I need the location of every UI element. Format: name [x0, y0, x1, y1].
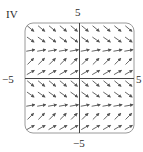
- field-arrow: [49, 37, 56, 42]
- field-arrow: [103, 70, 110, 74]
- field-arrow: [92, 50, 100, 51]
- field-arrow: [60, 81, 67, 86]
- field-arrow: [70, 70, 77, 74]
- field-arrow: [114, 26, 121, 31]
- field-arrow: [49, 26, 56, 31]
- field-arrow: [103, 105, 111, 106]
- field-arrow: [114, 92, 121, 97]
- field-arrow: [27, 113, 33, 119]
- field-arrow: [60, 26, 67, 31]
- field-arrow: [49, 70, 56, 74]
- field-arrow: [81, 125, 88, 129]
- field-arrow: [27, 81, 34, 86]
- field-arrow: [82, 113, 88, 119]
- field-arrow: [103, 37, 110, 42]
- field-arrow: [71, 37, 78, 42]
- field-arrow: [60, 58, 66, 64]
- field-arrow: [59, 70, 66, 74]
- field-arrow: [92, 125, 99, 129]
- field-arrow: [38, 125, 45, 129]
- field-arrow: [38, 58, 44, 64]
- field-arrow: [82, 81, 89, 86]
- field-arrow: [49, 113, 55, 119]
- field-arrow: [37, 50, 45, 51]
- field-arrow: [125, 81, 132, 86]
- field-arrow: [60, 113, 66, 119]
- field-arrow: [71, 113, 77, 119]
- field-arrow: [103, 81, 110, 86]
- field-arrow: [113, 50, 121, 51]
- field-arrow: [103, 50, 111, 51]
- field-arrow: [38, 92, 45, 97]
- field-arrow: [49, 92, 56, 97]
- field-arrow: [59, 50, 67, 51]
- field-arrow: [104, 58, 110, 64]
- field-arrow: [38, 26, 45, 31]
- field-arrow: [126, 113, 132, 119]
- field-arrow: [81, 70, 88, 74]
- field-arrow: [104, 113, 110, 119]
- field-arrow: [27, 92, 34, 97]
- field-arrow: [124, 105, 132, 106]
- field-arrow: [27, 58, 33, 64]
- field-arrow: [71, 92, 78, 97]
- field-arrow: [103, 125, 110, 129]
- field-arrow: [60, 37, 67, 42]
- field-arrow: [49, 81, 56, 86]
- field-arrow: [48, 50, 56, 51]
- field-arrow: [92, 70, 99, 74]
- field-arrow: [103, 26, 110, 31]
- field-arrow: [93, 26, 100, 31]
- field-arrow: [49, 125, 56, 129]
- field-arrow: [38, 70, 45, 74]
- field-arrow: [92, 37, 99, 42]
- field-arrow: [103, 92, 110, 97]
- field-arrow: [82, 58, 88, 64]
- field-arrow: [27, 70, 34, 74]
- field-arrow: [125, 37, 132, 42]
- field-arrow: [114, 37, 121, 42]
- field-arrow: [37, 105, 45, 106]
- field-arrow: [81, 92, 88, 97]
- field-arrow: [126, 58, 132, 64]
- field-arrow: [114, 70, 121, 74]
- field-arrow: [71, 58, 77, 64]
- field-arrow: [114, 125, 121, 129]
- field-arrow: [93, 58, 99, 64]
- field-arrow: [93, 81, 100, 86]
- field-arrow: [38, 81, 45, 86]
- field-arrow: [125, 125, 132, 129]
- field-arrow: [93, 113, 99, 119]
- field-arrow: [82, 26, 89, 31]
- field-arrow: [114, 81, 121, 86]
- field-arrow: [125, 92, 132, 97]
- field-arrow: [115, 58, 121, 64]
- field-arrow: [27, 125, 34, 129]
- field-arrow: [124, 50, 132, 51]
- field-arrow: [38, 37, 45, 42]
- field-arrow: [81, 37, 88, 42]
- vector-field-plot: [0, 0, 143, 152]
- field-arrow: [70, 125, 77, 129]
- field-arrow: [38, 113, 44, 119]
- field-arrow: [113, 105, 121, 106]
- field-arrow: [26, 50, 34, 51]
- field-arrow: [70, 105, 78, 106]
- field-arrow: [59, 105, 67, 106]
- field-arrow: [27, 26, 34, 31]
- field-arrow: [27, 37, 34, 42]
- field-arrow: [115, 113, 121, 119]
- field-arrow: [49, 58, 55, 64]
- field-arrow: [81, 105, 89, 106]
- field-arrow: [81, 50, 89, 51]
- field-arrow: [26, 105, 34, 106]
- field-arrow: [59, 125, 66, 129]
- field-arrow: [60, 92, 67, 97]
- field-arrow: [48, 105, 56, 106]
- field-arrow: [92, 105, 100, 106]
- field-arrow: [70, 50, 78, 51]
- field-arrow: [125, 26, 132, 31]
- field-arrow: [71, 26, 78, 31]
- field-arrow: [71, 81, 78, 86]
- field-arrow: [125, 70, 132, 74]
